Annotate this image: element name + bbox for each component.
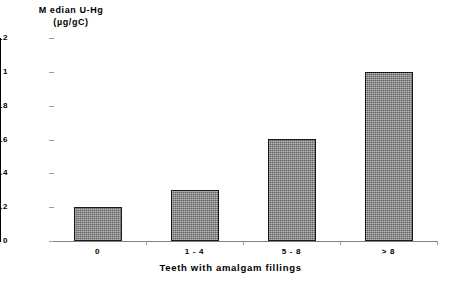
y-axis-tick-label: 0.6 <box>0 136 8 144</box>
bar <box>74 207 122 241</box>
y-axis-title: M edian U-Hg (µg/gC) <box>16 4 126 28</box>
y-axis-title-line-2: (µg/gC) <box>16 16 126 28</box>
y-axis-tick-label: 0.8 <box>0 102 8 110</box>
y-axis-tick-label: 0.4 <box>0 169 8 177</box>
y-axis-tick-label: 0 <box>0 237 8 245</box>
y-axis-tick-label: 1.2 <box>0 34 8 42</box>
x-axis-tick <box>243 241 244 245</box>
bar-chart-figure: M edian U-Hg (µg/gC) 1.210.80.60.40.20 0… <box>0 0 461 285</box>
bar <box>268 139 316 241</box>
bar <box>171 190 219 241</box>
x-axis-category-label: 1 - 4 <box>146 247 243 257</box>
x-axis-title: Teeth with amalgam fillings <box>0 262 461 273</box>
y-axis-tick-label: 1 <box>0 68 8 76</box>
x-axis-category-label: 0 <box>49 247 146 257</box>
bar <box>365 72 413 241</box>
x-axis-category-label: 5 - 8 <box>243 247 340 257</box>
x-axis-category-label: > 8 <box>340 247 437 257</box>
x-axis-tick <box>146 241 147 245</box>
plot-area <box>49 38 437 241</box>
y-axis-tick-label: 0.2 <box>0 203 8 211</box>
x-axis-tick <box>340 241 341 245</box>
y-axis-tick <box>49 241 54 242</box>
x-axis-tick <box>437 241 438 245</box>
y-axis-title-line-1: M edian U-Hg <box>16 4 126 16</box>
